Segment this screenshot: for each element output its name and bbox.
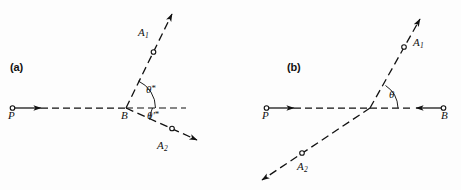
label-ray-a2-subscript-b: 2 — [304, 165, 308, 174]
label-ray-a1-a: A1 — [138, 27, 149, 40]
label-ray-a2-a: A2 — [157, 140, 168, 153]
angle-theta-prime-star-symbol: θ′ — [147, 109, 155, 121]
label-ray-a1-subscript: 1 — [145, 31, 149, 40]
angle-theta-prime-star-sup: * — [155, 109, 160, 119]
label-point-p-b: P — [262, 110, 269, 121]
figure-container: (a) P — [0, 0, 461, 190]
panel-a: (a) P — [0, 0, 230, 190]
label-ray-a1-subscript-b: 1 — [420, 41, 424, 50]
panel-b-label: (b) — [287, 61, 300, 73]
label-ray-a2-letter-b: A — [297, 160, 304, 172]
label-ray-a2-subscript: 2 — [164, 144, 168, 153]
panel-b-drawing — [230, 0, 461, 190]
ray-a1-line-b — [370, 19, 420, 108]
label-vertex-b: B — [121, 110, 128, 121]
ray-a2-line-b — [262, 108, 370, 180]
label-ray-a1-letter: A — [138, 26, 145, 38]
angle-theta-star-sup: * — [151, 83, 156, 93]
label-point-b: B — [441, 110, 448, 121]
label-ray-a2-b: A2 — [297, 161, 308, 174]
label-ray-a2-letter: A — [157, 139, 164, 151]
label-angle-theta-star: θ* — [146, 84, 156, 95]
point-marker-a2-b — [300, 151, 305, 156]
label-angle-theta-prime-star: θ′* — [147, 110, 159, 121]
label-ray-a1-letter-b: A — [413, 36, 420, 48]
ray-a2-line — [126, 108, 197, 140]
point-marker-a2 — [170, 126, 175, 131]
label-ray-a1-b: A1 — [413, 37, 424, 50]
point-marker-a1 — [151, 50, 156, 55]
point-marker-a1-b — [402, 45, 407, 50]
label-angle-theta: θ — [389, 89, 394, 100]
panel-a-drawing — [0, 0, 230, 190]
label-point-p-a: P — [8, 110, 15, 121]
panel-b: (b) P B A1 A2 θ — [230, 0, 461, 190]
